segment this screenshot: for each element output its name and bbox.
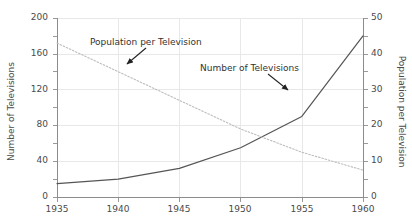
arrow-to-population-line <box>127 48 146 64</box>
chart-container: 200 160 120 80 40 0 50 40 30 20 10 0 193… <box>0 0 412 221</box>
series-line-number-of-televisions <box>57 36 363 184</box>
series-overlay <box>0 0 412 221</box>
arrow-to-televisions-line <box>268 74 288 90</box>
series-line-population-per-television <box>57 43 363 170</box>
